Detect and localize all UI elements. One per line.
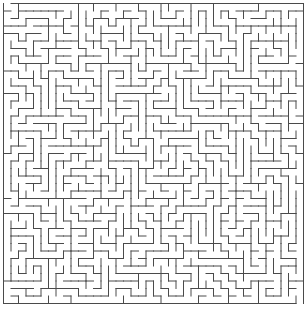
maze-walls [4, 4, 304, 304]
maze-canvas[interactable] [0, 0, 308, 310]
maze-board: Maze [0, 0, 308, 310]
